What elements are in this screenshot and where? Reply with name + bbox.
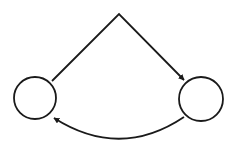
top-edge-line [52, 14, 184, 81]
diagram-canvas [0, 0, 236, 156]
left-node [14, 77, 56, 119]
edge-top [52, 14, 184, 81]
right-node [179, 77, 223, 121]
bottom-edge-curve [54, 117, 184, 139]
edge-bottom [54, 117, 184, 139]
